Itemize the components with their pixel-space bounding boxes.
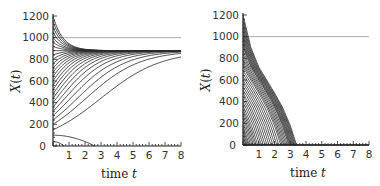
y-tick-label: 1200 <box>212 9 239 21</box>
y-tick-label: 1000 <box>212 30 239 42</box>
chart-panel-right: 20040060080010001200012345678time tX(t) <box>190 0 380 186</box>
trajectory-line <box>53 57 181 130</box>
x-tick-label: 6 <box>334 148 341 160</box>
origin-label: 0 <box>39 140 46 152</box>
x-tick-label: 1 <box>255 148 262 160</box>
x-tick-label: 8 <box>366 148 373 160</box>
y-tick-label: 1200 <box>22 10 49 22</box>
y-tick-label: 200 <box>29 118 49 130</box>
x-tick-label: 5 <box>130 149 137 161</box>
trajectory-line <box>53 27 181 51</box>
x-tick-label: 8 <box>178 149 185 161</box>
trajectory-group <box>53 16 181 146</box>
y-tick-label: 400 <box>29 96 49 108</box>
y-tick-label: 1000 <box>22 31 49 43</box>
y-tick-label: 800 <box>219 52 239 64</box>
chart-right-plot: 20040060080010001200012345678time tX(t) <box>190 0 380 186</box>
trajectory-line <box>53 16 181 51</box>
chart-left-plot: 20040060080010001200012345678time tX(t) <box>0 0 190 186</box>
x-tick-label: 2 <box>82 149 89 161</box>
x-tick-label: 2 <box>271 148 278 160</box>
x-tick-label: 6 <box>146 149 153 161</box>
y-axis-title: X(t) <box>9 70 23 94</box>
trajectory-line <box>53 53 181 124</box>
x-tick-label: 7 <box>350 148 357 160</box>
x-tick-label: 5 <box>318 148 325 160</box>
origin-label: 0 <box>229 139 236 151</box>
x-axis-title: time t <box>290 166 326 180</box>
x-tick-label: 4 <box>114 149 121 161</box>
y-tick-label: 800 <box>29 53 49 65</box>
trajectory-line <box>53 51 181 94</box>
y-tick-label: 200 <box>219 117 239 129</box>
x-axis-title: time t <box>101 167 137 181</box>
trajectory-line <box>53 32 181 50</box>
y-tick-label: 400 <box>219 95 239 107</box>
y-tick-label: 600 <box>219 74 239 86</box>
trajectory-group <box>243 15 369 145</box>
x-tick-label: 7 <box>162 149 169 161</box>
chart-panel-left: 20040060080010001200012345678time tX(t) <box>0 0 190 186</box>
x-tick-label: 3 <box>98 149 105 161</box>
y-axis-title: X(t) <box>199 69 213 93</box>
y-tick-label: 600 <box>29 75 49 87</box>
x-tick-label: 3 <box>287 148 294 160</box>
x-tick-label: 1 <box>66 149 73 161</box>
trajectory-line <box>53 51 181 81</box>
trajectory-line <box>53 21 181 50</box>
trajectory-line <box>53 38 181 51</box>
x-tick-label: 4 <box>303 148 310 160</box>
